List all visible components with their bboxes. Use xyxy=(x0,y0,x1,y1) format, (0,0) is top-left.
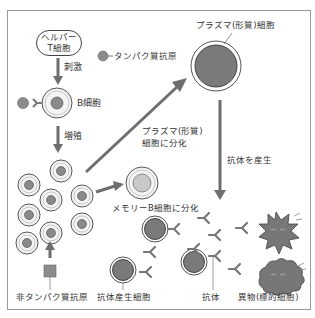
stimulation-arrow xyxy=(53,58,63,85)
foreign-target-label: 異物(標的細胞) xyxy=(238,292,299,303)
foreign-star-cell xyxy=(259,212,302,254)
antibody-label: 抗体 xyxy=(202,292,220,303)
non-protein-antigen-label: 非タンパク質抗原 xyxy=(16,292,88,303)
plasma-diff-label-1: プラズマ(形質) xyxy=(142,126,203,137)
proliferation-label: 増殖 xyxy=(64,131,82,142)
memory-b-diff-label: メモリーB細胞に分化 xyxy=(112,203,199,214)
plasma-cell-label: プラズマ(形質)細胞 xyxy=(196,20,275,31)
helper-t-label-1: ヘルパー xyxy=(37,32,81,43)
antibody-producing-cell-label: 抗体産生細胞 xyxy=(97,292,151,303)
protein-antigen-label: タンパク質抗原 xyxy=(114,51,177,62)
produce-antibody-label: 抗体を産生 xyxy=(227,155,272,166)
foreign-cloud-cell xyxy=(259,259,306,296)
memory-differentiation-arrow xyxy=(96,181,124,192)
proliferated-b-cells xyxy=(16,160,93,254)
produce-antibody-arrow xyxy=(214,100,226,200)
plasma-cell xyxy=(191,33,241,91)
protein-antigen-icon xyxy=(98,51,113,61)
antibody-producing-cells xyxy=(110,216,207,290)
plasma-differentiation-arrow xyxy=(86,78,187,172)
stimulation-label: 刺激 xyxy=(64,62,82,73)
helper-t-label-2: T細胞 xyxy=(37,43,81,54)
plasma-diff-label-2: 細胞に分化 xyxy=(142,138,187,149)
non-protein-antigen xyxy=(44,241,56,290)
b-cell-label: B細胞 xyxy=(77,98,101,109)
memory-b-cell xyxy=(126,167,158,199)
b-cell xyxy=(18,88,73,118)
proliferation-arrow xyxy=(53,126,63,153)
helper-t-cell: ヘルパー T細胞 xyxy=(36,30,82,56)
